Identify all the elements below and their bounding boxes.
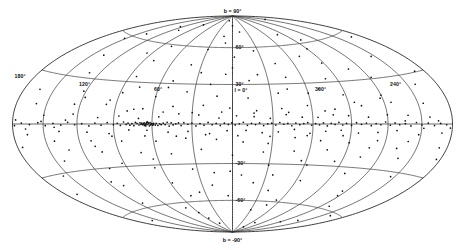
source-point — [84, 97, 86, 99]
source-point — [263, 151, 265, 153]
source-point — [303, 123, 305, 125]
source-point — [106, 122, 108, 124]
source-point — [245, 130, 247, 132]
source-point — [229, 107, 231, 109]
source-point — [320, 140, 322, 142]
source-point — [334, 124, 336, 126]
source-point — [43, 114, 45, 116]
source-point — [15, 119, 17, 121]
source-point — [267, 190, 269, 192]
source-point — [325, 78, 327, 80]
source-point — [152, 124, 154, 126]
skymap-canvas: b = 90° b = -90° l = 0° 180°120°60°300°2… — [0, 0, 465, 250]
source-point — [39, 88, 41, 90]
north-pole-label: b = 90° — [224, 8, 242, 14]
source-point — [337, 195, 339, 197]
source-point — [241, 174, 243, 176]
longitude-tick-240°: 240° — [390, 81, 401, 87]
source-point — [44, 125, 46, 127]
source-point — [397, 157, 399, 159]
source-point — [40, 121, 42, 123]
source-point — [127, 122, 129, 124]
source-point — [139, 122, 141, 124]
source-point — [332, 114, 334, 116]
source-point — [154, 124, 156, 126]
source-point — [323, 122, 325, 124]
source-point — [237, 135, 239, 137]
source-point — [390, 101, 392, 103]
source-point — [153, 60, 155, 62]
source-point — [255, 124, 257, 126]
source-point — [200, 72, 202, 74]
source-point — [294, 129, 296, 131]
source-point — [147, 121, 149, 123]
source-point — [175, 123, 177, 125]
source-point — [390, 124, 392, 126]
source-point — [253, 112, 255, 114]
source-point — [74, 103, 76, 105]
source-point — [155, 140, 157, 142]
source-point — [216, 95, 218, 97]
source-point — [307, 105, 309, 107]
source-point — [53, 126, 55, 128]
source-point — [109, 99, 111, 101]
source-point — [164, 124, 166, 126]
source-point — [342, 124, 344, 126]
source-point — [434, 125, 436, 127]
source-point — [380, 124, 382, 126]
source-point — [191, 122, 193, 124]
source-point — [123, 185, 125, 187]
source-point — [348, 142, 350, 144]
source-point — [149, 125, 151, 127]
source-point — [167, 131, 169, 133]
source-point — [145, 125, 147, 127]
source-point — [166, 121, 168, 123]
source-point — [207, 49, 209, 51]
source-point — [277, 34, 279, 36]
source-point — [248, 80, 250, 82]
source-point — [142, 108, 144, 110]
source-point — [342, 135, 344, 137]
source-point — [58, 131, 60, 133]
latitude-tick-60°: 60° — [236, 44, 244, 50]
latitude-tick-30°: 30° — [236, 81, 244, 87]
source-point — [172, 124, 174, 126]
source-point — [429, 116, 431, 118]
source-point — [283, 123, 285, 125]
source-point — [83, 90, 85, 92]
source-point — [158, 116, 160, 118]
source-point — [396, 148, 398, 150]
source-point — [266, 204, 268, 206]
south-pole-label: b = -90° — [223, 237, 242, 243]
source-point — [155, 96, 157, 98]
source-point — [178, 113, 180, 115]
source-point — [187, 123, 189, 125]
source-point — [405, 123, 407, 125]
source-point — [394, 122, 396, 124]
source-point — [261, 132, 263, 134]
source-point — [27, 134, 29, 136]
source-point — [168, 125, 170, 127]
source-point — [390, 176, 392, 178]
source-point — [319, 124, 321, 126]
source-point — [301, 160, 303, 162]
source-point — [306, 48, 308, 50]
source-point — [29, 124, 31, 126]
source-point — [340, 129, 342, 131]
source-point — [128, 129, 130, 131]
source-point — [344, 173, 346, 175]
source-point — [190, 64, 192, 66]
source-point — [219, 125, 221, 127]
source-point — [37, 122, 39, 124]
source-point — [120, 125, 122, 127]
source-point — [438, 147, 440, 149]
source-point — [236, 115, 238, 117]
source-point — [144, 135, 146, 137]
source-point — [324, 110, 326, 112]
source-point — [267, 123, 269, 125]
source-point — [172, 182, 174, 184]
source-point — [89, 72, 91, 74]
source-point — [157, 125, 159, 127]
source-point — [300, 180, 302, 182]
source-point — [286, 88, 288, 90]
